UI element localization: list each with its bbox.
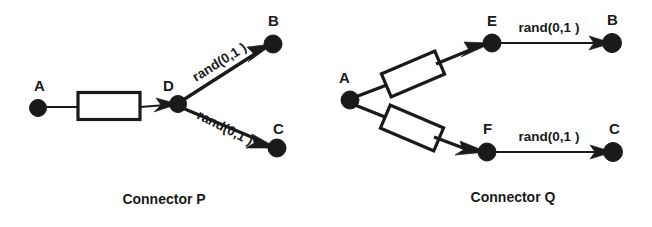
node-dot-b-q	[603, 34, 622, 53]
edge-a-to-e	[350, 42, 492, 99]
node-label-f: F	[483, 120, 492, 137]
node-label-a-q: A	[339, 69, 350, 86]
node-dot-f	[478, 143, 496, 161]
connector-diagram-figure: A D B C rand(0,1 ) rand(0,1 ) Connector …	[0, 0, 652, 227]
processing-box-af	[380, 105, 443, 151]
panel-connector-p: A D B C rand(0,1 ) rand(0,1 ) Connector …	[30, 12, 287, 207]
node-dot-c-q	[604, 143, 623, 162]
edge-a-to-f	[350, 103, 487, 155]
edge-label-d-c: rand(0,1 )	[195, 107, 256, 148]
node-dot-a	[30, 100, 47, 117]
edge-e-to-b	[492, 36, 612, 50]
node-label-d: D	[163, 77, 174, 94]
node-dot-d	[170, 96, 187, 113]
node-dot-a-q	[341, 91, 359, 109]
processing-box-ad	[78, 93, 140, 120]
node-label-e: E	[487, 12, 497, 29]
node-label-c-q: C	[609, 120, 620, 137]
caption-connector-p: Connector P	[122, 191, 205, 207]
node-label-b: B	[268, 12, 279, 29]
node-label-c: C	[273, 120, 284, 137]
edge-a-to-d	[38, 93, 178, 120]
edge-label-f-c: rand(0,1 )	[519, 129, 580, 144]
node-label-a: A	[34, 77, 45, 94]
processing-box-ae	[381, 51, 444, 97]
node-dot-b	[264, 35, 282, 53]
node-dot-c	[268, 139, 286, 157]
edge-segment-boxe-e	[436, 50, 470, 64]
edge-f-to-c	[487, 145, 613, 159]
node-label-b-q: B	[607, 11, 618, 28]
node-dot-e	[483, 34, 501, 52]
panel-connector-q: A E B F C rand(0,1 ) rand(0,1 ) Connecto…	[339, 11, 623, 205]
edge-label-e-b: rand(0,1 )	[519, 20, 580, 35]
caption-connector-q: Connector Q	[471, 189, 556, 205]
